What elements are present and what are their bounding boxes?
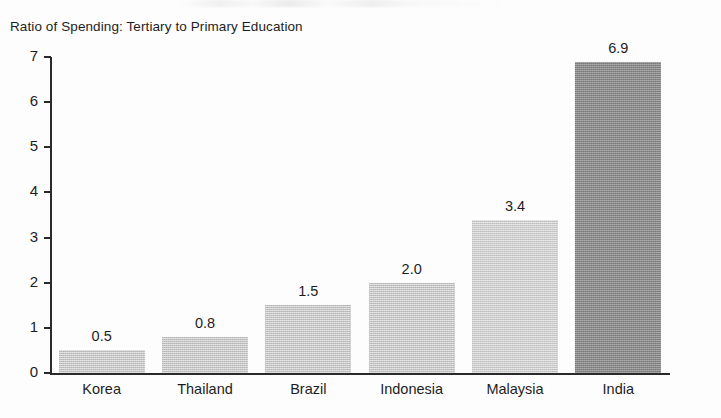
y-tick-0 bbox=[44, 372, 51, 374]
category-label-malaysia: Malaysia bbox=[455, 381, 575, 397]
bar-value-label-thailand: 0.8 bbox=[165, 315, 245, 331]
y-tick-5 bbox=[44, 146, 51, 148]
y-tick-label-3: 3 bbox=[16, 228, 38, 245]
bar-malaysia bbox=[472, 220, 558, 373]
y-tick-4 bbox=[44, 191, 51, 193]
y-tick-label-2: 2 bbox=[16, 273, 38, 290]
x-axis-line bbox=[50, 373, 670, 375]
y-tick-7 bbox=[44, 56, 51, 58]
y-tick-label-5: 5 bbox=[16, 137, 38, 154]
plot-area: 01234567 0.50.81.52.03.46.9 KoreaThailan… bbox=[0, 0, 721, 418]
bar-chart-figure: Ratio of Spending: Tertiary to Primary E… bbox=[0, 0, 721, 418]
category-label-india: India bbox=[558, 381, 678, 397]
bar-value-label-brazil: 1.5 bbox=[268, 283, 348, 299]
y-tick-6 bbox=[44, 101, 51, 103]
y-tick-label-0: 0 bbox=[16, 363, 38, 380]
category-label-korea: Korea bbox=[42, 381, 162, 397]
bar-indonesia bbox=[369, 283, 455, 373]
category-label-brazil: Brazil bbox=[248, 381, 368, 397]
bar-value-label-korea: 0.5 bbox=[62, 328, 142, 344]
y-tick-label-7: 7 bbox=[16, 47, 38, 64]
y-tick-label-1: 1 bbox=[16, 318, 38, 335]
bar-korea bbox=[59, 350, 145, 373]
category-label-thailand: Thailand bbox=[145, 381, 265, 397]
y-tick-2 bbox=[44, 282, 51, 284]
bar-thailand bbox=[162, 337, 248, 373]
y-tick-label-4: 4 bbox=[16, 182, 38, 199]
bar-value-label-india: 6.9 bbox=[578, 40, 658, 56]
bar-value-label-indonesia: 2.0 bbox=[372, 261, 452, 277]
y-tick-label-6: 6 bbox=[16, 92, 38, 109]
bar-india bbox=[575, 62, 661, 373]
y-tick-1 bbox=[44, 327, 51, 329]
y-tick-3 bbox=[44, 237, 51, 239]
bar-brazil bbox=[265, 305, 351, 373]
category-label-indonesia: Indonesia bbox=[352, 381, 472, 397]
bar-value-label-malaysia: 3.4 bbox=[475, 198, 555, 214]
